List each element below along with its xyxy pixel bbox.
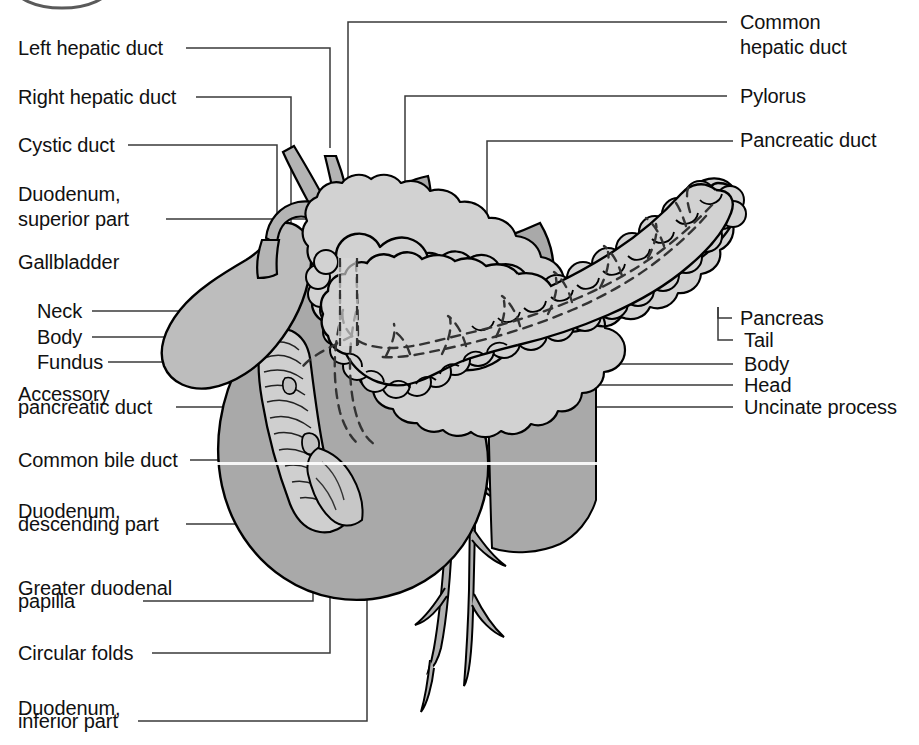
label-gallbladder-neck: Neck xyxy=(37,299,82,324)
label-gallbladder: Gallbladder xyxy=(18,250,119,275)
leader-pancreas-bracket xyxy=(718,307,732,318)
label-duodenum-superior-part-line2: superior part xyxy=(18,207,129,232)
label-cystic-duct: Cystic duct xyxy=(18,133,115,158)
common-bile-duct-band xyxy=(338,258,358,346)
label-right-hepatic-duct: Right hepatic duct xyxy=(18,85,176,110)
label-left-hepatic-duct: Left hepatic duct xyxy=(18,36,163,61)
label-duodenum-inferior-part-line2: inferior part xyxy=(18,709,118,734)
label-accessory-pancreatic-duct-line2: pancreatic duct xyxy=(18,395,152,420)
label-pancreatic-duct: Pancreatic duct xyxy=(740,128,876,153)
label-greater-duodenal-papilla-line2: papilla xyxy=(18,589,75,614)
label-common-bile-duct: Common bile duct xyxy=(18,448,178,473)
scan-highlight-band xyxy=(176,462,919,465)
label-uncinate-process: Uncinate process xyxy=(744,395,897,420)
leader-left-hepatic-duct xyxy=(186,48,330,148)
minor-duodenal-papilla xyxy=(283,378,296,395)
label-duodenum-superior-part-line1: Duodenum, xyxy=(18,182,121,207)
label-duodenum-descending-part-line2: descending part xyxy=(18,512,159,537)
label-gallbladder-fundus: Fundus xyxy=(37,350,103,375)
label-circular-folds: Circular folds xyxy=(18,641,133,666)
label-gallbladder-body: Body xyxy=(37,325,82,350)
label-common-hepatic-duct-line2: hepatic duct xyxy=(740,35,847,60)
page-corner-artifact xyxy=(14,0,110,8)
label-pancreas-tail: Tail xyxy=(744,328,774,353)
label-pylorus: Pylorus xyxy=(740,84,806,109)
cystic-duct-neck xyxy=(257,240,279,278)
label-common-hepatic-duct-line1: Common xyxy=(740,10,821,35)
leader-pancreas-tail xyxy=(718,307,733,340)
anatomy-figure: Left hepatic duct Right hepatic duct Cys… xyxy=(0,0,919,745)
